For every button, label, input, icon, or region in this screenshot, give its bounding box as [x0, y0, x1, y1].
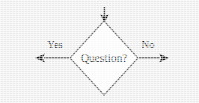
decision-node[interactable]: Question? [70, 21, 138, 95]
edge-label-no: No [142, 39, 155, 50]
edge-incoming-arrow [100, 7, 109, 23]
decision-node-label: Question? [81, 52, 128, 64]
edge-yes-branch: Yes [35, 39, 69, 62]
yes-arrowhead-icon [35, 54, 45, 63]
no-arrowhead-icon [159, 54, 169, 63]
flowchart-diagram: Question? Yes No [0, 0, 199, 103]
edge-label-yes: Yes [47, 39, 62, 50]
edge-no-branch: No [139, 39, 169, 62]
flowchart-canvas: Question? Yes No [0, 0, 199, 103]
